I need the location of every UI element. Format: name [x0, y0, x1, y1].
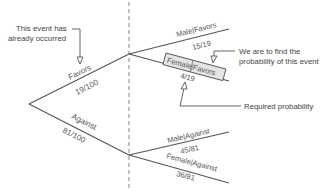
- find-note-line2: probability of this event: [239, 57, 320, 66]
- male-against-probability: 45/81: [179, 143, 199, 156]
- required-note: Required probability: [244, 102, 313, 111]
- occurred-callout-line: [72, 29, 80, 58]
- find-arrow-icon: [211, 56, 217, 63]
- male-favors-probability: 15/19: [191, 39, 211, 52]
- occurred-note-line1: This event has: [16, 24, 67, 33]
- male-against-label: Male|Against: [166, 126, 211, 145]
- branch-against: [29, 104, 129, 155]
- occurred-arrow-icon: [77, 57, 83, 64]
- female-against-label: Female|Against: [165, 151, 218, 173]
- probability-tree-diagram: Favors 19/100 Against 81/100 Male|Favors…: [0, 0, 329, 192]
- female-against-probability: 36/81: [176, 169, 196, 182]
- favors-probability: 19/100: [74, 78, 100, 97]
- required-arrow-icon: [181, 82, 187, 89]
- against-probability: 81/100: [61, 126, 87, 145]
- find-note-line1: We are to find the: [239, 47, 300, 56]
- against-label: Against: [70, 112, 99, 132]
- male-favors-label: Male|Favors: [175, 20, 217, 39]
- occurred-note-line2: already occurred: [8, 34, 66, 43]
- required-callout-line: [180, 88, 241, 106]
